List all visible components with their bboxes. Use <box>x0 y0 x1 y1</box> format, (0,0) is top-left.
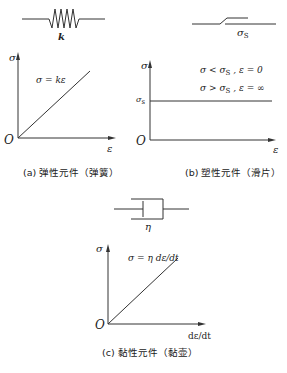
yield-tick-label: σs <box>136 96 145 106</box>
y-axis-label: σ <box>9 53 16 63</box>
condition-above-yield: σ > σS , ε = ∞ <box>200 84 265 95</box>
stress-strain-plot-a <box>0 0 140 180</box>
origin-label: O <box>4 134 14 146</box>
x-axis-label: ε <box>107 144 112 154</box>
stress-strain-rate-plot-c <box>60 180 240 373</box>
x-axis-label: dε/dt <box>188 332 211 341</box>
panel-plastic-element: σS σ σ < σS , ε = 0 σ > σS , ε = ∞ σs O … <box>140 0 287 180</box>
panel-elastic-element: k σ σ = kε O ε (a) 弹性元件（弹簧） <box>0 0 140 180</box>
caption-a: (a) 弹性元件（弹簧） <box>23 168 119 178</box>
spring-constant-label: k <box>58 32 65 42</box>
caption-b: (b) 塑性元件（滑片） <box>185 168 281 178</box>
condition-below-yield: σ < σS , ε = 0 <box>200 66 263 77</box>
yield-stress-label: σS <box>237 28 249 40</box>
panel-viscous-element: η σ σ = η dε/dt O dε/dt (c) 黏性元件（黏壶） <box>60 180 240 373</box>
viscosity-label: η <box>145 222 151 232</box>
equation-label: σ = η dε/dt <box>128 254 179 263</box>
caption-c: (c) 黏性元件（黏壶） <box>102 348 198 358</box>
origin-label: O <box>136 135 146 147</box>
x-axis-label: ε <box>273 145 278 155</box>
y-axis-label: σ <box>141 61 148 71</box>
y-axis-label: σ <box>96 244 103 254</box>
origin-label: O <box>95 319 105 331</box>
equation-label: σ = kε <box>36 76 66 85</box>
